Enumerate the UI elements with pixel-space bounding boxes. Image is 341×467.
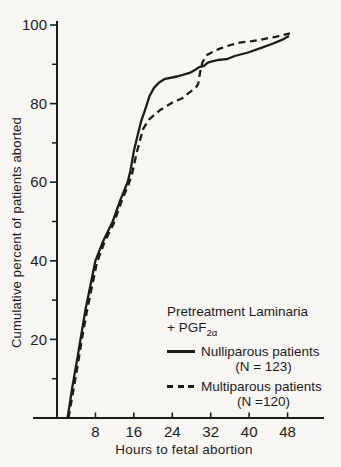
- legend-swatch-solid-line: [167, 350, 195, 353]
- y-axis-title: Cumulative percent of patients aborted: [9, 117, 24, 348]
- x-tick-label-32: 32: [202, 423, 219, 440]
- x-axis-title: Hours to fetal abortion: [57, 442, 311, 457]
- y-tick-label-100: 100: [22, 16, 47, 33]
- legend-title-line2: + PGF2α: [167, 320, 326, 340]
- legend: Pretreatment Laminaria + PGF2α Nulliparo…: [167, 304, 326, 410]
- legend-title-line1: Pretreatment Laminaria: [167, 304, 326, 320]
- legend-item-multiparous: Multiparous patients: [167, 379, 326, 395]
- x-tick-label-40: 40: [241, 423, 258, 440]
- y-tick-label-60: 60: [30, 173, 47, 190]
- legend-swatch-dashed-line: [167, 385, 195, 388]
- legend-n-nulliparous: (N = 123): [201, 359, 326, 375]
- legend-item-nulliparous: Nulliparous patients: [167, 344, 326, 360]
- y-tick-label-40: 40: [30, 252, 47, 269]
- pgf-subscript: 2α: [206, 326, 217, 337]
- x-tick-label-8: 8: [91, 423, 99, 440]
- x-tick-label-48: 48: [279, 423, 296, 440]
- legend-label-multiparous: Multiparous patients: [201, 379, 322, 395]
- legend-n-multiparous: (N =120): [201, 394, 326, 410]
- legend-title-pgf: + PGF: [167, 320, 206, 335]
- x-tick-label-16: 16: [126, 423, 143, 440]
- y-tick-label-20: 20: [30, 331, 47, 348]
- figure-root: 8162432404820406080100 Cumulative percen…: [0, 0, 341, 467]
- legend-label-nulliparous: Nulliparous patients: [201, 344, 320, 360]
- x-tick-label-24: 24: [164, 423, 181, 440]
- y-tick-label-80: 80: [30, 95, 47, 112]
